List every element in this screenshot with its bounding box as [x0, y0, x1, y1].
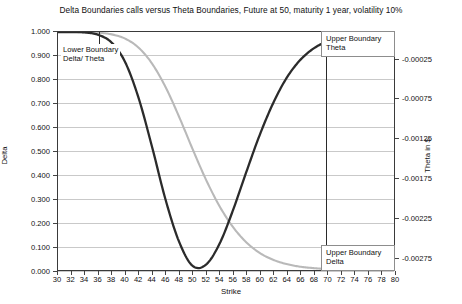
x-axis-tick-label: 42	[134, 275, 142, 284]
x-axis-tick-label: 64	[283, 275, 291, 284]
annotation-lower-boundary: Lower Boundary Delta/ Theta	[61, 44, 120, 65]
chart-title: Delta Boundaries calls versus Theta Boun…	[0, 5, 462, 15]
x-axis-tick-label: 50	[188, 275, 196, 284]
x-axis-tick-label: 38	[107, 275, 115, 284]
y-axis-tick-label: 0.900	[0, 51, 50, 60]
upper-boundary-line	[326, 32, 327, 271]
y2-axis-tick-mark	[395, 258, 399, 259]
series-canvas	[58, 32, 394, 270]
y-axis-tick-label: 1.000	[0, 27, 50, 36]
y2-axis-tick-mark	[395, 178, 399, 179]
x-axis-tick-label: 74	[350, 275, 358, 284]
annotation-upper-boundary-theta: Upper Boundary Theta	[321, 31, 395, 57]
x-axis-title: Strike	[0, 287, 462, 296]
x-axis-tick-label: 78	[377, 275, 385, 284]
y2-axis-tick-label: -0.00025	[402, 55, 432, 64]
y-axis-tick-label: 0.600	[0, 123, 50, 132]
y-axis-tick-label: 0.300	[0, 195, 50, 204]
x-axis-tick-label: 62	[269, 275, 277, 284]
x-axis-tick-label: 80	[391, 275, 399, 284]
annotation-line-1: Upper Boundary	[326, 248, 391, 257]
y2-axis-tick-mark	[395, 98, 399, 99]
y-axis-tick-label: 0.700	[0, 99, 50, 108]
x-axis-tick-label: 44	[147, 275, 155, 284]
y2-axis-title: Theta in $	[423, 138, 432, 173]
y-axis-title: Delta	[0, 146, 9, 164]
y-axis-tick-label: 0.200	[0, 219, 50, 228]
y2-axis-tick-label: -0.00175	[402, 174, 432, 183]
y-axis-tick-label: 0.100	[0, 243, 50, 252]
x-axis-tick-label: 72	[337, 275, 345, 284]
annotation-upper-boundary-delta: Upper Boundary Delta	[321, 245, 395, 271]
y-axis-tick-label: 0.000	[0, 267, 50, 276]
x-axis-tick-label: 40	[120, 275, 128, 284]
annotation-line-1: Upper Boundary	[326, 34, 391, 43]
x-axis-tick-label: 76	[364, 275, 372, 284]
y2-axis-tick-mark	[395, 138, 399, 139]
x-axis-tick-label: 32	[66, 275, 74, 284]
y-axis-tick-label: 0.800	[0, 75, 50, 84]
x-axis-tick-label: 66	[296, 275, 304, 284]
x-axis-tick-label: 46	[161, 275, 169, 284]
annotation-line-2: Delta/ Theta	[63, 54, 118, 63]
y2-axis-tick-label: -0.00075	[402, 94, 432, 103]
y2-axis-tick-mark	[395, 59, 399, 60]
x-axis-tick-label: 54	[215, 275, 223, 284]
chart-root: Delta Boundaries calls versus Theta Boun…	[0, 0, 462, 304]
x-axis-tick-label: 60	[256, 275, 264, 284]
annotation-line-2: Theta	[326, 43, 391, 52]
y2-axis-tick-label: -0.00275	[402, 254, 432, 263]
series-line-theta	[58, 32, 394, 268]
x-axis-tick-label: 48	[174, 275, 182, 284]
annotation-line-1: Lower Boundary	[63, 45, 118, 54]
x-axis-tick-label: 52	[201, 275, 209, 284]
plot-area	[57, 31, 395, 271]
grid-line	[58, 271, 394, 272]
x-axis-tick-label: 70	[323, 275, 331, 284]
y2-axis-tick-label: -0.00225	[402, 214, 432, 223]
y-axis-tick-label: 0.400	[0, 171, 50, 180]
x-axis-tick-label: 34	[80, 275, 88, 284]
y2-axis-tick-mark	[395, 218, 399, 219]
series-line-delta	[58, 32, 394, 270]
x-axis-tick-label: 68	[310, 275, 318, 284]
x-axis-tick-label: 58	[242, 275, 250, 284]
x-axis-tick-label: 56	[229, 275, 237, 284]
x-axis-tick-label: 30	[53, 275, 61, 284]
x-axis-tick-label: 36	[93, 275, 101, 284]
annotation-line-2: Delta	[326, 257, 391, 266]
